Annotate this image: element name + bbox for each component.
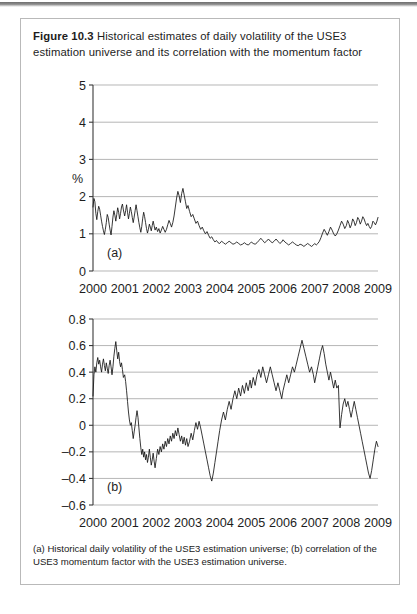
x-tick-label: 2005	[237, 282, 265, 296]
x-tick-label: 2000	[79, 282, 107, 296]
chart-a-svg: 012345%200020012002200320042005200620072…	[21, 75, 401, 307]
figure-caption: (a) Historical daily volatility of the U…	[33, 543, 393, 568]
x-tick-label: 2006	[269, 282, 297, 296]
figure-title: Figure 10.3 Historical estimates of dail…	[33, 29, 389, 60]
x-tick-label: 2003	[174, 282, 202, 296]
chart-panel-b: –0.6–0.4–0.200.20.40.60.8200020012002200…	[21, 309, 401, 541]
y-tick-label: 4	[79, 116, 86, 130]
y-tick-label: 0.4	[69, 366, 86, 380]
x-tick-label: 2009	[364, 282, 392, 296]
y-tick-label: 3	[79, 153, 86, 167]
panel-label: (b)	[107, 480, 122, 494]
y-tick-label: 0	[79, 419, 86, 433]
x-tick-label: 2005	[237, 516, 265, 530]
x-tick-label: 2003	[174, 516, 202, 530]
y-tick-label: 0.8	[69, 313, 86, 327]
y-axis-title: %	[72, 172, 83, 186]
chart-b-svg: –0.6–0.4–0.200.20.40.60.8200020012002200…	[21, 309, 401, 541]
figure-box: Figure 10.3 Historical estimates of dail…	[20, 18, 400, 585]
y-tick-label: 0.2	[69, 392, 86, 406]
x-tick-label: 2001	[111, 516, 139, 530]
series-line	[93, 340, 378, 481]
y-tick-label: –0.6	[62, 499, 86, 513]
x-tick-label: 2006	[269, 516, 297, 530]
y-tick-label: 0	[79, 265, 86, 279]
series-line	[93, 188, 378, 246]
x-tick-label: 2002	[142, 516, 170, 530]
x-tick-label: 2008	[332, 516, 360, 530]
x-tick-label: 2007	[301, 282, 329, 296]
y-tick-label: 0.6	[69, 339, 86, 353]
panel-label: (a)	[107, 246, 122, 260]
x-tick-label: 2002	[142, 282, 170, 296]
x-tick-label: 2004	[206, 282, 234, 296]
y-tick-label: 1	[79, 227, 86, 241]
x-tick-label: 2000	[79, 516, 107, 530]
x-tick-label: 2001	[111, 282, 139, 296]
y-tick-label: 2	[79, 190, 86, 204]
x-tick-label: 2009	[364, 516, 392, 530]
figure-number: Figure 10.3	[33, 30, 94, 42]
chart-panel-a: 012345%200020012002200320042005200620072…	[21, 75, 401, 307]
x-tick-label: 2008	[332, 282, 360, 296]
page-top-scan-band	[0, 0, 417, 7]
x-tick-label: 2007	[301, 516, 329, 530]
y-tick-label: –0.4	[62, 472, 86, 486]
y-tick-label: –0.2	[62, 445, 86, 459]
y-tick-label: 5	[79, 79, 86, 93]
x-tick-label: 2004	[206, 516, 234, 530]
